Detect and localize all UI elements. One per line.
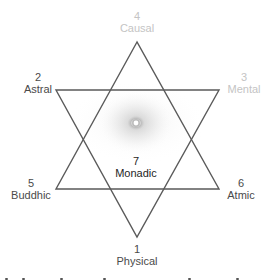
plane-label-atmic: 6 Atmic [206, 177, 271, 201]
plane-number: 6 [206, 177, 271, 189]
hexagram-diagram [0, 0, 271, 280]
plane-number: 5 [0, 177, 66, 189]
plane-number: 1 [102, 243, 172, 255]
plane-number: 3 [209, 71, 271, 83]
plane-number: 4 [102, 10, 172, 22]
plane-name: Monadic [101, 167, 171, 179]
plane-name: Mental [209, 83, 271, 95]
plane-label-physical: 1 Physical [102, 243, 172, 267]
plane-label-mental: 3 Mental [209, 71, 271, 95]
plane-name: Physical [102, 255, 172, 267]
plane-number: 2 [3, 71, 73, 83]
plane-label-causal: 4 Causal [102, 10, 172, 34]
center-glow [98, 91, 174, 155]
plane-label-buddhic: 5 Buddhic [0, 177, 66, 201]
plane-name: Buddhic [0, 189, 66, 201]
plane-name: Atmic [206, 189, 271, 201]
plane-label-astral: 2 Astral [3, 71, 73, 95]
plane-name: Causal [102, 22, 172, 34]
plane-number: 7 [101, 155, 171, 167]
plane-name: Astral [3, 83, 73, 95]
plane-label-monadic: 7 Monadic [101, 155, 171, 179]
